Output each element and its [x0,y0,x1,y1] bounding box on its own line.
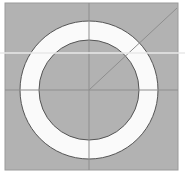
figure-canvas: Annulus (circular ring) on shaded square [0,0,185,175]
annulus-figure-svg [0,0,185,175]
scan-artifact-streak [0,52,185,54]
